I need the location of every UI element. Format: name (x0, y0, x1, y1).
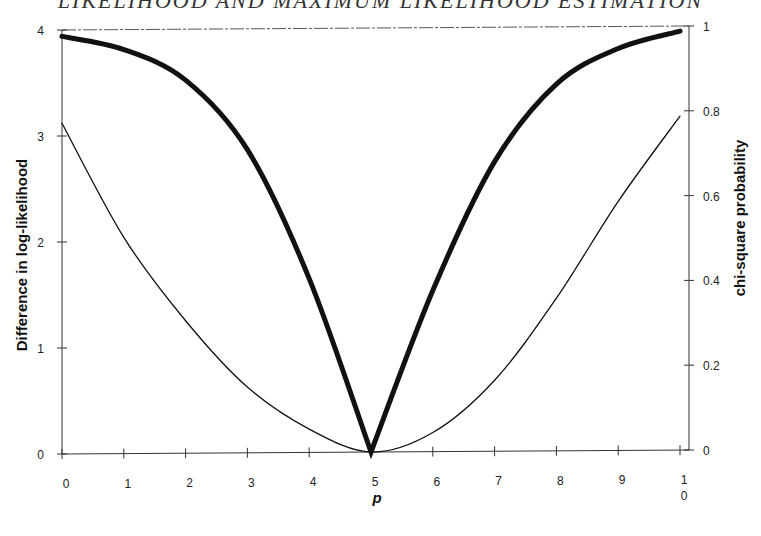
y-axis-title: Difference in log-likelihood (13, 159, 30, 352)
y-tick-label: 2 (37, 236, 44, 250)
top-border-line (62, 26, 689, 30)
x-tick-label: 4 (310, 475, 317, 489)
chart: 012345678910 01234 00.20.40.60.81 p Diff… (0, 0, 761, 536)
y-tick-label: 3 (37, 130, 44, 144)
x-tick-label: 1 (681, 473, 688, 487)
y2-tick-label: 0.2 (703, 359, 720, 373)
x-axis-title: p (371, 489, 381, 506)
x-tick-label: 3 (248, 476, 255, 490)
x-tick-label: 5 (372, 475, 379, 489)
x-tick-label: 6 (433, 475, 440, 489)
log-likelihood-difference-line (62, 116, 680, 452)
y2-tick-label: 1 (703, 20, 710, 34)
x-tick-label: 0 (681, 489, 688, 503)
y2-axis-title: chi-square probability (731, 139, 748, 296)
y-tick-label: 1 (37, 342, 44, 356)
y2-tick-label: 0 (703, 444, 710, 458)
plot-frame (62, 26, 689, 454)
x-tick-label: 7 (495, 474, 502, 488)
x-tick-label: 0 (63, 477, 70, 491)
y2-tick-label: 0.6 (703, 190, 720, 204)
y2-tick-label: 0.8 (703, 105, 720, 119)
chi-square-probability-line (62, 31, 680, 452)
y-tick-label: 4 (37, 24, 44, 38)
series-lines (62, 31, 680, 452)
y2-tick-label: 0.4 (703, 274, 720, 288)
x-tick-label: 1 (124, 477, 131, 491)
x-tick-label: 9 (619, 473, 626, 487)
x-tick-label: 2 (186, 476, 193, 490)
y-axis-left: 01234 (37, 24, 67, 462)
x-tick-label: 8 (557, 474, 564, 488)
y-tick-label: 0 (37, 448, 44, 462)
